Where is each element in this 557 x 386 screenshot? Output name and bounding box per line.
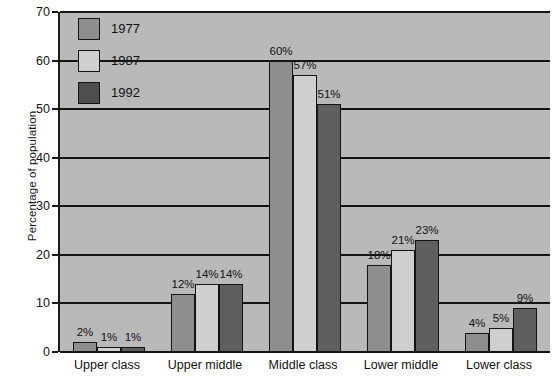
- y-axis-tick-labels: 010203040506070: [14, 0, 50, 386]
- y-tick-label: 70: [14, 6, 50, 19]
- y-tick-mark: [52, 254, 58, 256]
- gridline: [60, 11, 550, 13]
- bar: [269, 61, 293, 352]
- x-axis-label: Upper middle: [156, 358, 254, 372]
- bar-value-label: 9%: [507, 293, 543, 305]
- x-axis-label: Upper class: [58, 358, 156, 372]
- x-axis-label: Lower middle: [352, 358, 450, 372]
- bar-value-label: 1%: [115, 332, 151, 344]
- bar: [293, 75, 317, 352]
- bar: [367, 265, 391, 352]
- x-axis-label: Middle class: [254, 358, 352, 372]
- bar: [97, 347, 121, 352]
- bar-value-label: 60%: [263, 46, 299, 58]
- bar: [489, 328, 513, 352]
- y-tick-mark: [52, 11, 58, 13]
- bar: [513, 308, 537, 352]
- legend-label: 1977: [111, 21, 140, 37]
- bar: [391, 250, 415, 352]
- y-tick-mark: [52, 157, 58, 159]
- y-tick-label: 0: [14, 346, 50, 359]
- y-tick-mark: [52, 205, 58, 207]
- bar-value-label: 14%: [213, 269, 249, 281]
- legend-item: 1987: [78, 50, 188, 76]
- bar: [415, 240, 439, 352]
- y-tick-label: 30: [14, 200, 50, 213]
- bar: [465, 333, 489, 352]
- y-tick-label: 40: [14, 151, 50, 164]
- legend-swatch-icon: [78, 50, 100, 72]
- x-axis-label: Lower class: [450, 358, 548, 372]
- bar-value-label: 51%: [311, 89, 347, 101]
- legend-swatch-icon: [78, 18, 100, 40]
- bar-chart: Percentage of population 010203040506070…: [0, 0, 557, 386]
- y-tick-mark: [52, 60, 58, 62]
- legend-item: 1992: [78, 82, 188, 108]
- y-tick-mark: [52, 351, 58, 353]
- legend-label: 1992: [111, 85, 140, 101]
- bar: [171, 294, 195, 352]
- y-tick-mark: [52, 108, 58, 110]
- y-tick-label: 10: [14, 297, 50, 310]
- legend-label: 1987: [111, 53, 140, 69]
- bar: [73, 342, 97, 352]
- bar-value-label: 57%: [287, 60, 323, 72]
- legend-swatch-icon: [78, 82, 100, 104]
- bar: [219, 284, 243, 352]
- bar: [195, 284, 219, 352]
- y-tick-label: 20: [14, 249, 50, 262]
- legend: 197719871992: [78, 18, 188, 114]
- bar: [317, 104, 341, 352]
- x-axis-category-labels: Upper classUpper middleMiddle classLower…: [58, 358, 552, 382]
- bar-value-label: 23%: [409, 225, 445, 237]
- y-tick-mark: [52, 302, 58, 304]
- y-tick-label: 50: [14, 103, 50, 116]
- bar: [121, 347, 145, 352]
- legend-item: 1977: [78, 18, 188, 44]
- y-tick-label: 60: [14, 54, 50, 67]
